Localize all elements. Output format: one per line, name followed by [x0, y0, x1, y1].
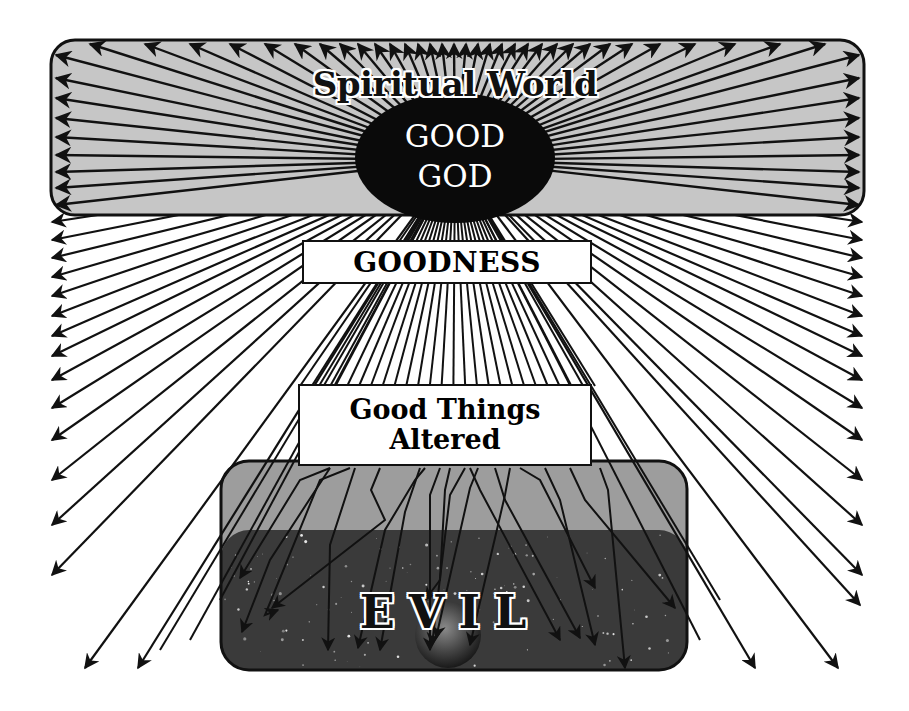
altered-line-1: Good Things — [349, 395, 540, 425]
god-line-2: GOD — [355, 156, 555, 196]
good-things-altered-box: Good Things Altered — [298, 384, 592, 466]
goodness-label: GOODNESS — [353, 246, 541, 279]
evil-label: EVIL — [300, 585, 600, 639]
altered-line-2: Altered — [389, 425, 500, 455]
good-god-label: GOOD GOD — [355, 116, 555, 196]
god-line-1: GOOD — [355, 116, 555, 156]
spiritual-world-title: Spiritual World — [250, 64, 660, 104]
goodness-box: GOODNESS — [302, 240, 592, 284]
goodness-diagram: Spiritual World GOOD GOD GOODNESS Good T… — [0, 0, 909, 711]
